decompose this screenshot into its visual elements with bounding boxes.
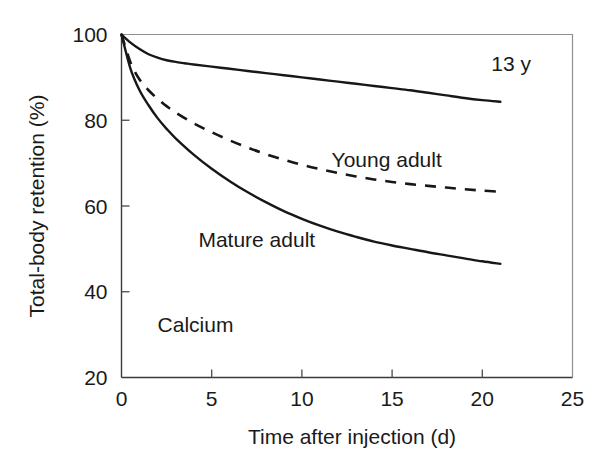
chart-figure: 20406080100 0510152025 13 y Young adult … xyxy=(0,0,611,467)
y-axis-ticks xyxy=(122,120,130,292)
x-tick-label: 15 xyxy=(380,387,403,410)
series-label-mature-adult: Mature adult xyxy=(198,228,315,251)
x-tick-label: 5 xyxy=(206,387,218,410)
x-tick-label: 25 xyxy=(561,387,584,410)
series-line-young-adult xyxy=(122,35,501,192)
y-tick-label: 80 xyxy=(84,109,107,132)
series-line-13y xyxy=(122,35,501,102)
x-axis-title: Time after injection (d) xyxy=(248,425,456,448)
annotation-calcium: Calcium xyxy=(158,313,234,336)
x-tick-label: 20 xyxy=(471,387,494,410)
y-tick-label: 100 xyxy=(72,23,107,46)
x-tick-label: 0 xyxy=(116,387,128,410)
y-tick-label: 40 xyxy=(84,280,107,303)
series-labels: 13 y Young adult Mature adult xyxy=(198,52,531,251)
y-axis-title: Total-body retention (%) xyxy=(25,95,48,318)
x-axis-tick-labels: 0510152025 xyxy=(116,387,585,410)
y-tick-label: 60 xyxy=(84,195,107,218)
series-label-young-adult: Young adult xyxy=(332,148,442,171)
x-tick-label: 10 xyxy=(290,387,313,410)
annotations: Calcium xyxy=(158,313,234,336)
y-tick-label: 20 xyxy=(84,366,107,389)
y-axis-tick-labels: 20406080100 xyxy=(72,23,107,389)
chart-canvas: 20406080100 0510152025 13 y Young adult … xyxy=(0,0,611,467)
x-axis-ticks xyxy=(212,370,483,378)
series-label-13y: 13 y xyxy=(491,52,531,75)
